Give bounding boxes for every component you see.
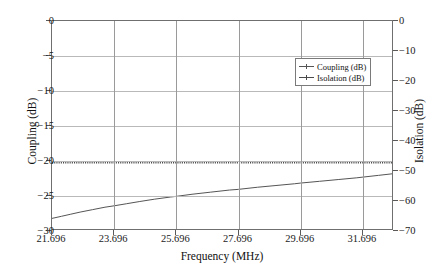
gridline-horizontal: [52, 91, 392, 92]
axis-tick-label-left: 0: [49, 15, 54, 26]
gridline-vertical: [301, 21, 302, 229]
axis-tick-label-left: −20: [38, 155, 54, 166]
axis-tick-right: [393, 80, 398, 81]
axis-tick-right: [393, 110, 398, 111]
chart-figure: 0−5−10−15−20−25−30 0−10−20−30−40−50−60−7…: [0, 0, 447, 278]
gridline-horizontal: [52, 161, 392, 162]
gridline-vertical: [239, 21, 240, 229]
gridline-horizontal: [52, 56, 392, 57]
axis-tick-right: [393, 200, 398, 201]
axis-tick-label-right: −70: [399, 225, 415, 236]
gridline-horizontal: [52, 126, 392, 127]
axis-tick-right: [393, 20, 398, 21]
axis-tick-label-bottom: 25.696: [161, 233, 190, 244]
axis-tick-label-bottom: 23.696: [99, 233, 128, 244]
axis-tick-label-left: −15: [38, 120, 54, 131]
legend-label-isolation: Isolation (dB): [317, 73, 364, 83]
chart-legend: Coupling (dB) Isolation (dB): [295, 58, 371, 86]
axis-tick-right: [393, 140, 398, 141]
axis-tick-label-left: −5: [43, 50, 54, 61]
axis-tick-right: [393, 230, 398, 231]
legend-swatch-isolation-icon: [299, 73, 314, 82]
gridline-vertical: [114, 21, 115, 229]
axis-tick-label-bottom: 31.696: [347, 233, 376, 244]
axis-tick-label-right: 0: [399, 15, 404, 26]
legend-swatch-coupling-icon: [299, 62, 314, 71]
axis-tick-label-right: −10: [399, 45, 415, 56]
legend-label-coupling: Coupling (dB): [317, 62, 366, 72]
legend-item-isolation: Isolation (dB): [299, 72, 366, 83]
axis-tick-right: [393, 170, 398, 171]
gridline-horizontal: [52, 196, 392, 197]
axis-tick-label-left: −25: [38, 190, 54, 201]
axis-tick-label-right: −60: [399, 195, 415, 206]
axis-tick-label-bottom: 27.696: [223, 233, 252, 244]
axis-tick-right: [393, 50, 398, 51]
axis-tick-label-bottom: 21.696: [37, 233, 66, 244]
plot-area: [51, 20, 393, 230]
axis-tick-label-bottom: 29.696: [285, 233, 314, 244]
x-axis-label: Frequency (MHz): [51, 250, 393, 262]
gridline-vertical: [176, 21, 177, 229]
legend-item-coupling: Coupling (dB): [299, 61, 366, 72]
y-axis-label-right: Isolation (dB): [413, 71, 425, 191]
axis-tick-label-left: −10: [38, 85, 54, 96]
gridline-vertical: [363, 21, 364, 229]
y-axis-label-left: Coupling (dB): [26, 71, 38, 191]
